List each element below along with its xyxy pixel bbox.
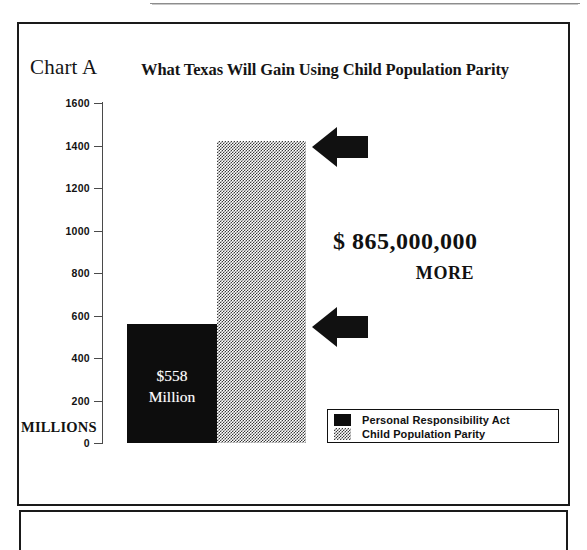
arrow-head [312, 307, 337, 347]
bar-value-label-pra: $558 Million [127, 365, 217, 407]
legend-item-child-population-parity: Child Population Parity [334, 427, 558, 440]
legend-label-cpp: Child Population Parity [362, 428, 485, 440]
y-tick-label-1400: 1400 [20, 140, 90, 152]
y-tick-mark-200 [94, 401, 102, 402]
arrow-tail [336, 136, 368, 158]
y-tick-mark-1400 [94, 146, 102, 147]
y-tick-mark-0 [94, 443, 102, 444]
lower-page-frame [19, 510, 568, 550]
legend-swatch-icon-solid [334, 414, 351, 426]
bar-value-label-pra-amount: $558 [127, 365, 217, 386]
y-axis-tick-labels: 1600 1400 1200 1000 800 600 400 200 0 [18, 0, 90, 526]
y-tick-label-800: 800 [20, 267, 90, 279]
y-tick-label-1200: 1200 [20, 182, 90, 194]
arrow-left-icon-bottom [312, 307, 368, 347]
legend-label-pra: Personal Responsibility Act [362, 414, 510, 426]
y-tick-mark-1000 [94, 231, 102, 232]
legend: Personal Responsibility Act Child Popula… [327, 409, 559, 443]
chart-title: What Texas Will Gain Using Child Populat… [141, 60, 509, 80]
scan-artifact-line-secondary [152, 4, 578, 5]
difference-amount: $ 865,000,000 [333, 228, 478, 255]
y-tick-label-0: 0 [20, 437, 90, 449]
arrow-head [312, 127, 337, 167]
y-tick-label-400: 400 [20, 352, 90, 364]
arrow-tail [336, 316, 368, 338]
y-tick-label-1600: 1600 [20, 97, 90, 109]
arrow-left-icon-top [312, 127, 368, 167]
bar-child-population-parity [217, 141, 306, 443]
y-tick-label-200: 200 [20, 395, 90, 407]
y-tick-label-600: 600 [20, 310, 90, 322]
legend-item-personal-responsibility-act: Personal Responsibility Act [334, 413, 558, 426]
bar-value-label-pra-unit: Million [127, 386, 217, 407]
legend-swatch-icon-dotted [334, 428, 351, 440]
y-tick-mark-400 [94, 358, 102, 359]
y-tick-mark-1600 [94, 103, 102, 104]
y-tick-mark-600 [94, 316, 102, 317]
y-tick-mark-800 [94, 273, 102, 274]
difference-word: MORE [333, 263, 557, 284]
y-tick-label-1000: 1000 [20, 225, 90, 237]
y-axis-unit-label: MILLIONS [21, 419, 97, 436]
y-tick-mark-1200 [94, 188, 102, 189]
